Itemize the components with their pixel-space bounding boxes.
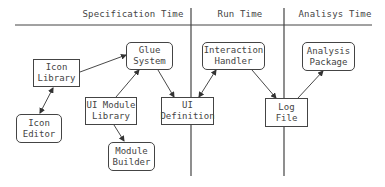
edge-interaction-handler-ui-definition [199,70,216,97]
node-label-line2: Package [310,57,348,68]
node-ui-module-library: UI Module Library [85,97,137,125]
node-interaction-handler: Interaction Handler [202,42,265,70]
node-glue-system: Glue System [126,42,173,70]
edge-interaction-handler-log-file [252,70,276,98]
node-icon-editor: Icon Editor [16,114,62,143]
node-label-line1: Icon [28,118,50,129]
edge-glue-system-ui-definition [158,70,174,97]
node-label-line2: Handler [215,56,253,67]
node-ui-definition: UI Definition [161,97,214,125]
edge-icon-library-glue-system [80,55,126,72]
node-label-line1: Glue [139,45,161,56]
node-label-line2: Library [38,73,76,84]
header-run-time: Run Time [208,9,272,19]
node-label-line1: UI Module [87,100,136,111]
node-label-line2: Builder [113,157,151,168]
edge-ui-module-library-module-builder [114,125,124,141]
node-label-line2: File [276,113,298,124]
diagram-lines [0,0,385,187]
edge-log-file-analysis-package [298,71,323,98]
node-icon-library: Icon Library [33,59,80,87]
node-label-line2: Library [92,111,130,122]
node-label-line1: UI [182,100,193,111]
edge-ui-module-library-glue-system [116,70,139,97]
node-label-line1: Module [115,146,148,157]
node-log-file: Log File [265,98,308,127]
node-label-line1: Icon [46,62,68,73]
node-label-line2: Editor [23,129,56,140]
header-analysis-time: Analisys Time [295,9,375,19]
node-analysis-package: Analysis Package [302,42,355,71]
header-specification-time: Specification Time [78,9,188,19]
node-label-line2: System [133,56,166,67]
node-label-line1: Interaction [204,45,264,56]
node-module-builder: Module Builder [108,142,155,171]
node-label-line1: Log [278,102,294,113]
node-label-line2: Definition [160,111,214,122]
node-label-line1: Analysis [307,46,350,57]
edge-icon-editor-icon-library [40,88,53,113]
